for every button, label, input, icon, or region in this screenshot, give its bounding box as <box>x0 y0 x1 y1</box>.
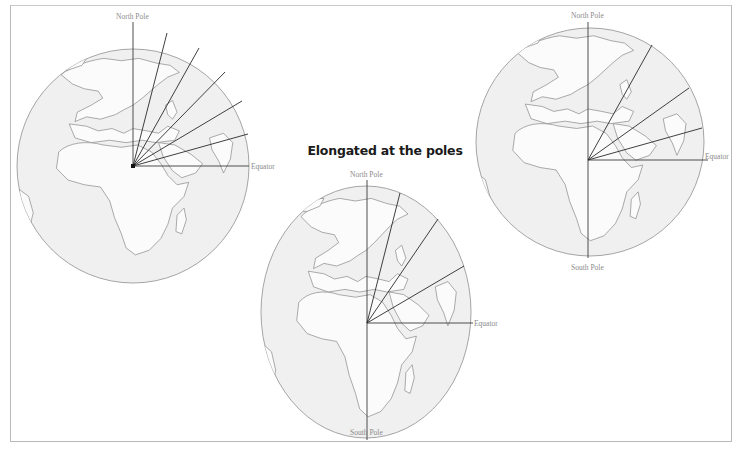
north-pole-label-left: North Pole <box>116 12 149 21</box>
south-pole-label-right: South Pole <box>571 263 604 272</box>
north-pole-label-middle: North Pole <box>350 170 383 179</box>
globe-left <box>17 22 249 283</box>
globe-middle <box>261 180 473 440</box>
north-pole-label-right: North Pole <box>571 11 604 20</box>
south-pole-label-middle: South Pole <box>350 428 383 437</box>
equator-label-middle: Equator <box>474 319 498 328</box>
equator-label-right: Equator <box>705 152 729 161</box>
globe-right <box>476 22 708 258</box>
globes-diagram <box>0 0 744 452</box>
diagram-title: Elongated at the poles <box>300 143 470 158</box>
center-point-marker <box>131 164 135 168</box>
equator-label-left: Equator <box>251 162 275 171</box>
